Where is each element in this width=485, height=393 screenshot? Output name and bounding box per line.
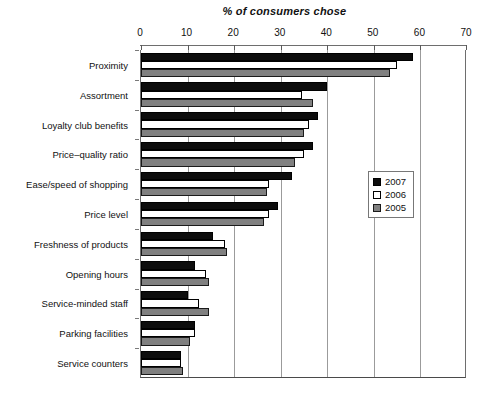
bar [141, 261, 195, 269]
y-category-label: Price level [84, 209, 128, 220]
bar [141, 53, 413, 61]
legend-label: 2005 [385, 203, 406, 213]
x-axis-line [140, 45, 467, 46]
bar [141, 202, 278, 210]
y-category-label: Loyalty club benefits [42, 119, 128, 130]
y-category-label: Ease/speed of shopping [26, 179, 128, 190]
y-tick-mark [135, 348, 139, 349]
bar [141, 210, 269, 218]
bar [141, 120, 309, 128]
y-category-label: Service counters [57, 358, 128, 369]
bar [141, 270, 206, 278]
bar [141, 359, 181, 367]
y-category-label: Assortment [80, 89, 128, 100]
legend-item: 2006 [373, 188, 409, 201]
y-category-label: Parking facilities [59, 328, 128, 339]
legend-swatch-icon [373, 204, 381, 212]
bar [141, 248, 227, 256]
y-axis-category-labels: ProximityAssortmentLoyalty club benefits… [0, 50, 135, 378]
x-axis-tick-labels: 010203040506070 [140, 27, 466, 41]
bar [141, 308, 209, 316]
y-tick-mark [135, 259, 139, 260]
chart-title: % of consumers chose [42, 5, 485, 17]
legend-item: 2007 [373, 175, 409, 188]
x-tick-label: 20 [228, 27, 239, 38]
bar [141, 172, 292, 180]
bar [141, 180, 269, 188]
bar [141, 232, 213, 240]
x-tick-label: 50 [367, 27, 378, 38]
y-tick-mark [135, 318, 139, 319]
bar-chart: % of consumers chose 010203040506070 Pro… [0, 0, 485, 393]
legend-label: 2006 [385, 190, 406, 200]
bar [141, 142, 313, 150]
bar [141, 278, 209, 286]
bar [141, 291, 188, 299]
bar [141, 367, 183, 375]
bar [141, 150, 304, 158]
bar [141, 188, 267, 196]
chart-legend: 200720062005 [368, 171, 414, 218]
x-tick-label: 10 [181, 27, 192, 38]
y-tick-mark [135, 50, 139, 51]
bars-layer [141, 50, 465, 377]
bar [141, 82, 327, 90]
y-category-label: Service-minded staff [42, 298, 128, 309]
y-category-label: Freshness of products [34, 238, 128, 249]
bar [141, 299, 199, 307]
x-tick-label: 70 [460, 27, 471, 38]
y-tick-mark [135, 139, 139, 140]
y-category-label: Proximity [89, 59, 128, 70]
y-tick-mark [135, 110, 139, 111]
bar [141, 240, 225, 248]
x-tick-label: 60 [414, 27, 425, 38]
legend-label: 2007 [385, 177, 406, 187]
legend-item: 2005 [373, 201, 409, 214]
bar [141, 99, 313, 107]
bar [141, 337, 190, 345]
y-category-label: Opening hours [66, 268, 128, 279]
bar [141, 351, 181, 359]
x-tick-label: 40 [321, 27, 332, 38]
x-tick-mark [466, 45, 467, 50]
bar [141, 129, 304, 137]
bar [141, 158, 295, 166]
bar [141, 321, 195, 329]
plot-area [140, 50, 466, 378]
bar [141, 329, 195, 337]
x-tick-label: 30 [274, 27, 285, 38]
y-tick-mark [135, 169, 139, 170]
bar [141, 218, 264, 226]
y-tick-mark [135, 199, 139, 200]
y-category-label: Price–quality ratio [52, 149, 128, 160]
bar [141, 69, 390, 77]
y-tick-mark [135, 289, 139, 290]
bar [141, 112, 318, 120]
bar [141, 91, 302, 99]
y-tick-mark [135, 80, 139, 81]
bar [141, 61, 397, 69]
x-tick-label: 0 [137, 27, 143, 38]
legend-swatch-icon [373, 178, 381, 186]
y-tick-mark [135, 229, 139, 230]
legend-swatch-icon [373, 191, 381, 199]
